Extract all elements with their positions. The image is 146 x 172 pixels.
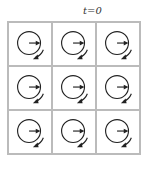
grid-cell (8, 110, 52, 154)
state-grid (7, 21, 141, 155)
rotation-arrow-icon (97, 23, 139, 65)
rotation-arrow-icon (97, 111, 139, 153)
rotation-arrow-icon (97, 67, 139, 109)
time-label: t=0 (83, 5, 102, 16)
rotation-arrow-icon (53, 111, 95, 153)
grid-cell (52, 66, 96, 110)
grid-cell (52, 110, 96, 154)
rotation-arrow-icon (9, 23, 51, 65)
grid-cell (96, 110, 140, 154)
rotation-arrow-icon (53, 67, 95, 109)
grid-cell (8, 22, 52, 66)
grid-cell (8, 66, 52, 110)
rotation-arrow-icon (9, 67, 51, 109)
rotation-arrow-icon (53, 23, 95, 65)
grid-cell (96, 22, 140, 66)
grid-cell (52, 22, 96, 66)
rotation-arrow-icon (9, 111, 51, 153)
grid-cell (96, 66, 140, 110)
